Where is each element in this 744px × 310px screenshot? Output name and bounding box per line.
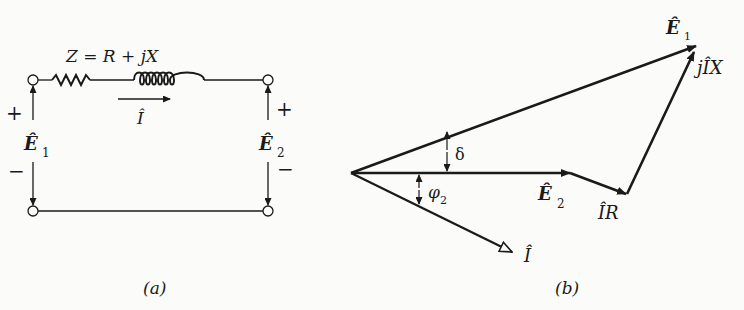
current-phasor-label: Î (523, 244, 533, 266)
caption-b: (b) (555, 278, 579, 298)
inductor-icon (134, 73, 204, 85)
e2-phasor-subscript: 2 (557, 197, 565, 211)
jix-label: jÎX (693, 56, 724, 78)
ir-phasor-arrow (570, 173, 626, 194)
current-label: Î (136, 108, 145, 128)
delta-label: δ (455, 145, 465, 164)
terminal-bottom-right (263, 206, 273, 216)
e1-minus: − (8, 159, 25, 183)
phasor-diagram (351, 46, 696, 252)
e1-plus: + (6, 101, 23, 125)
circuit-diagram (28, 73, 273, 217)
terminal-top-right (263, 75, 273, 85)
jix-phasor-arrow (627, 52, 694, 194)
terminal-top-left (28, 75, 38, 85)
e1-phasor-subscript: 1 (684, 30, 691, 43)
e1-label: Ê (23, 132, 38, 154)
e1-phasor-arrow (351, 46, 696, 173)
figure: Z = R + jX Î + Ê 1 − + Ê 2 − (a) Ê 1 jÎX… (0, 0, 744, 310)
phi-subscript: 2 (440, 194, 447, 207)
terminal-bottom-left (28, 206, 38, 216)
e2-label: Ê (258, 132, 273, 154)
phi-label: φ (428, 182, 440, 202)
e2-phasor-label: Ê (537, 182, 552, 204)
e1-subscript: 1 (42, 146, 50, 160)
ir-label: ÎR (597, 201, 619, 223)
caption-a: (a) (143, 278, 166, 298)
resistor-icon (52, 75, 90, 85)
impedance-label: Z = R + jX (65, 46, 159, 66)
e2-plus: + (276, 97, 293, 121)
e2-minus: − (277, 157, 294, 181)
e1-phasor-label: Ê (665, 16, 680, 38)
